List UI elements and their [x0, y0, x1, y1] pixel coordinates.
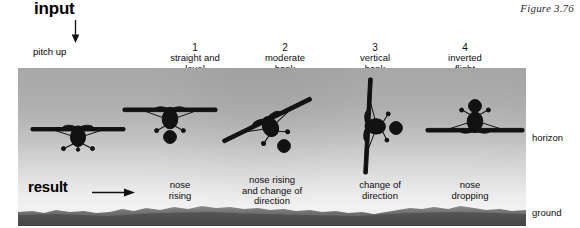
result-label: result [28, 178, 68, 195]
result-line2: dropping [410, 191, 530, 202]
aircraft-inverted [420, 96, 530, 152]
aircraft-level [28, 116, 128, 156]
label-ground: ground [532, 207, 562, 218]
result-line1: nose [410, 180, 530, 191]
input-label: input [34, 0, 75, 19]
result-caption-2: nose rising and change of direction [212, 175, 332, 207]
result-caption-4: nose dropping [410, 180, 530, 201]
aircraft-moderate-bank [212, 96, 322, 156]
figure-root: Figure 3.76 input pitch up 1 straight an… [0, 0, 580, 228]
aircraft-level-result [120, 100, 220, 146]
result-line3: direction [212, 196, 332, 207]
aircraft-vertical-bank [338, 88, 428, 164]
column-title-line1: inverted [410, 53, 520, 64]
label-horizon: horizon [532, 132, 563, 143]
input-sublabel: pitch up [33, 46, 66, 57]
arrow-down-icon [70, 20, 81, 44]
figure-caption: Figure 3.76 [520, 2, 574, 14]
result-line1: nose rising [212, 175, 332, 186]
